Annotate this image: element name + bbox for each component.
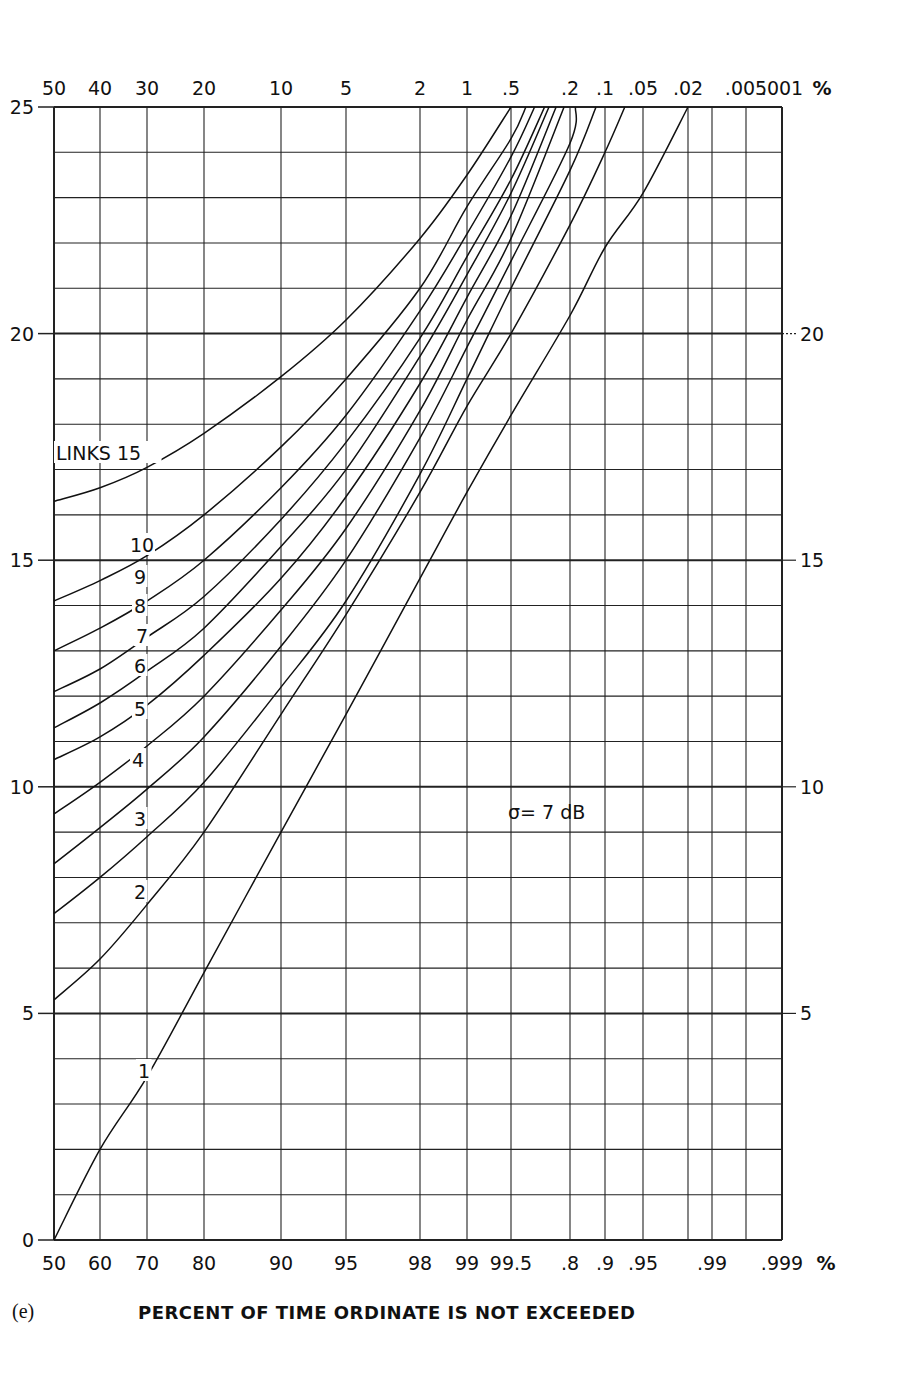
x-tick-top: .001 [761,77,803,99]
x-tick-bottom: 70 [135,1252,159,1274]
x-tick-top: 40 [88,77,112,99]
y-tick-right: 5 [800,1002,812,1024]
x-tick-top: .5 [502,77,520,99]
x-tick-top: 2 [414,77,426,99]
x-tick-bottom: .9 [596,1252,614,1274]
x-tick-top: 30 [135,77,159,99]
curve-links-6 [54,107,556,760]
curve-label: 3 [134,808,146,830]
y-tick-left: 20 [10,323,34,345]
x-tick-top: 1 [461,77,473,99]
x-axis-title: PERCENT OF TIME ORDINATE IS NOT EXCEEDED [138,1302,635,1323]
curve-label: 2 [134,881,146,903]
sigma-annotation: σ= 7 dB [508,801,585,823]
x-tick-bottom: 60 [88,1252,112,1274]
curve-label: 1 [138,1060,150,1082]
x-tick-top: 20 [192,77,216,99]
y-tick-right: 10 [800,776,824,798]
curve-label: LINKS 15 [56,442,141,464]
x-tick-top: 5 [340,77,352,99]
x-tick-bottom: .99 [697,1252,727,1274]
y-tick-right: 15 [800,549,824,571]
x-tick-top: 50 [42,77,66,99]
x-tick-bottom: 80 [192,1252,216,1274]
y-tick-left: 25 [10,96,34,118]
x-tick-bottom: .95 [628,1252,658,1274]
panel-tag: (e) [12,1300,34,1323]
curve-links-10 [54,107,526,601]
y-tick-left: 10 [10,776,34,798]
y-tick-right: 20 [800,323,824,345]
x-tick-top: 10 [269,77,293,99]
x-tick-bottom: 95 [334,1252,358,1274]
curve-label: 6 [134,655,146,677]
x-tick-bottom: .8 [561,1252,579,1274]
curve-label: 7 [136,625,148,647]
curve-label: 10 [130,534,154,556]
x-unit-bottom: % [816,1252,835,1274]
probability-chart: 05101520255101520506070809095989999.5.8.… [0,0,910,1389]
curve-links-3 [54,107,596,914]
x-tick-top: .05 [628,77,658,99]
x-tick-bottom: 50 [42,1252,66,1274]
x-tick-top: .2 [561,77,579,99]
curve-links-7 [54,107,549,728]
x-tick-bottom: 99.5 [490,1252,532,1274]
x-tick-bottom: 99 [455,1252,479,1274]
x-tick-bottom: 98 [408,1252,432,1274]
curve-label: 5 [134,698,146,720]
y-tick-left: 15 [10,549,34,571]
x-tick-top: .02 [673,77,703,99]
x-tick-bottom: 90 [269,1252,293,1274]
x-tick-bottom: .999 [761,1252,803,1274]
curve-label: 4 [132,749,144,771]
x-unit-top: % [812,77,831,99]
x-tick-top: .1 [596,77,614,99]
curve-label: 8 [134,595,146,617]
curve-label: 9 [134,566,146,588]
y-tick-left: 5 [22,1002,34,1024]
grid-lines [54,107,782,1240]
y-tick-left: 0 [22,1229,34,1251]
